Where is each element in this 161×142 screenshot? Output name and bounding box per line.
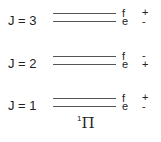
energy-line-lower (53, 106, 116, 107)
energy-line-upper (53, 98, 116, 99)
sign-lower: - (142, 101, 146, 111)
energy-line-lower (53, 21, 116, 22)
energy-line-upper (53, 56, 116, 57)
energy-line-lower (53, 64, 116, 65)
j-label: J = 2 (8, 57, 37, 70)
state-symbol: Π (81, 114, 94, 132)
j-label: J = 3 (8, 14, 37, 27)
j-label: J = 1 (8, 99, 37, 112)
level-j3: J = 3 f e + - (0, 6, 161, 26)
level-j1: J = 1 f e + - (0, 91, 161, 111)
sign-lower: - (142, 16, 146, 26)
sign-lower: + (142, 59, 148, 69)
parity-label-lower: e (122, 59, 128, 69)
parity-label-lower: e (122, 101, 128, 111)
level-j2: J = 2 f e - + (0, 49, 161, 69)
state-label: 1Π (77, 114, 95, 132)
energy-line-upper (53, 13, 116, 14)
parity-label-lower: e (122, 16, 128, 26)
